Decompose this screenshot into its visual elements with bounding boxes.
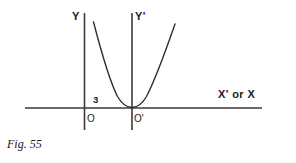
- parabola-translated-axes-svg: Y Y' X' or X 3 O O' Fig. 55: [0, 0, 296, 163]
- figure-caption: Fig. 55: [6, 137, 42, 151]
- origin-prime-label: O': [134, 113, 144, 124]
- shift-distance-label: 3: [93, 94, 98, 105]
- x-axis-label: X' or X: [218, 88, 255, 100]
- origin-label: O: [87, 113, 95, 124]
- parabola-curve: [94, 22, 176, 108]
- figure-55-diagram: Y Y' X' or X 3 O O' Fig. 55: [0, 0, 296, 163]
- y-axis-label: Y: [72, 10, 80, 22]
- y-prime-axis-label: Y': [135, 10, 146, 22]
